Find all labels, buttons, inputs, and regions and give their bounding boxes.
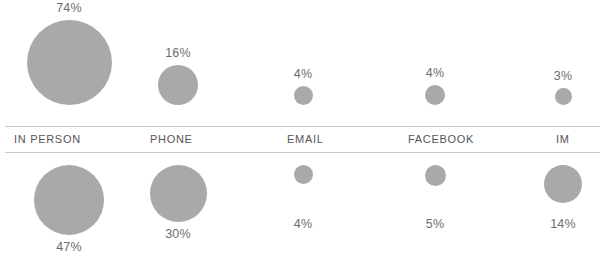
bottom-bubble-phone bbox=[150, 165, 207, 222]
bottom-bubble-in-person bbox=[34, 165, 104, 235]
bottom-bubble-im bbox=[544, 165, 582, 203]
bottom-bubble-group-email: 4% bbox=[255, 165, 351, 261]
bottom-value-label-email: 4% bbox=[294, 218, 312, 231]
bottom-value-label-phone: 30% bbox=[165, 228, 191, 241]
category-label-email: EMAIL bbox=[287, 126, 324, 151]
bottom-bubble-group-facebook: 5% bbox=[387, 165, 483, 261]
top-value-label-in-person: 74% bbox=[56, 2, 82, 15]
bottom-value-label-in-person: 47% bbox=[56, 241, 82, 254]
bottom-bubble-group-in-person: 47% bbox=[8, 165, 130, 261]
top-bubble-group-in-person: 74% bbox=[8, 0, 130, 105]
bottom-bubble-group-phone: 30% bbox=[130, 165, 226, 261]
top-bubble-im bbox=[555, 88, 572, 105]
bottom-value-label-im: 14% bbox=[550, 218, 576, 231]
bottom-bubble-facebook bbox=[425, 165, 446, 186]
top-value-label-facebook: 4% bbox=[426, 67, 444, 80]
category-label-phone: PHONE bbox=[150, 126, 193, 151]
top-value-label-phone: 16% bbox=[165, 47, 191, 60]
top-bubble-group-phone: 16% bbox=[130, 0, 226, 105]
top-bubble-group-facebook: 4% bbox=[387, 0, 483, 105]
category-label-in-person: IN PERSON bbox=[14, 126, 81, 151]
category-label-im: IM bbox=[556, 126, 570, 151]
top-bubble-facebook bbox=[425, 85, 445, 105]
top-bubble-group-email: 4% bbox=[255, 0, 351, 105]
top-bubble-in-person bbox=[27, 20, 112, 105]
top-bubble-email bbox=[294, 86, 313, 105]
bottom-bubble-email bbox=[294, 165, 313, 184]
bubble-chart: 74% 47% 16% 30% 4% 4% 4% bbox=[0, 0, 605, 261]
bottom-value-label-facebook: 5% bbox=[426, 218, 444, 231]
top-bubble-group-im: 3% bbox=[515, 0, 605, 105]
top-value-label-email: 4% bbox=[294, 68, 312, 81]
category-label-facebook: FACEBOOK bbox=[408, 126, 474, 151]
top-bubble-phone bbox=[158, 65, 198, 105]
bottom-bubble-group-im: 14% bbox=[515, 165, 605, 261]
top-value-label-im: 3% bbox=[554, 70, 572, 83]
